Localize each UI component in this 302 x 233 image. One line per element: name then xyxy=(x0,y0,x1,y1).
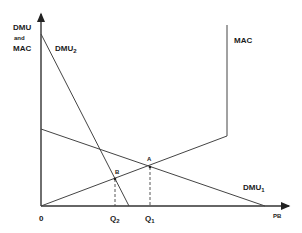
point-a-label: A xyxy=(147,156,152,162)
q2-label: Q2 xyxy=(110,214,120,224)
point-b-marker xyxy=(114,178,117,181)
point-b-label: B xyxy=(115,169,120,175)
dmu1-label: DMU1 xyxy=(243,183,265,193)
y-axis-label-line1: DMU xyxy=(13,23,31,32)
y-axis-label-line2: and xyxy=(14,35,25,41)
dmu2-curve xyxy=(41,34,129,206)
point-a-marker xyxy=(149,166,152,169)
x-axis-label: PB xyxy=(273,213,282,219)
dmu1-curve xyxy=(41,129,265,206)
dmu2-label: DMU2 xyxy=(55,44,77,54)
origin-label: 0 xyxy=(39,214,44,223)
q1-label: Q1 xyxy=(145,214,155,224)
diagram-canvas: DMU and MAC DMU2 MAC DMU1 A B 0 Q2 Q1 PB xyxy=(0,0,302,233)
mac-label: MAC xyxy=(234,36,252,45)
y-axis-label-line3: MAC xyxy=(13,44,31,53)
